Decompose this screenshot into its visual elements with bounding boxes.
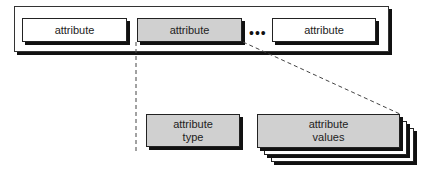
dashed-diagonal-connector: [243, 42, 400, 114]
attribute-type-box: attribute type: [146, 114, 240, 147]
attribute-type-line2: type: [173, 131, 213, 144]
attribute-type-line1: attribute: [173, 118, 213, 131]
attribute-values-line1: attribute: [309, 118, 349, 131]
attribute-values-line2: values: [309, 131, 349, 144]
attribute-values-box: attribute values: [257, 114, 400, 148]
